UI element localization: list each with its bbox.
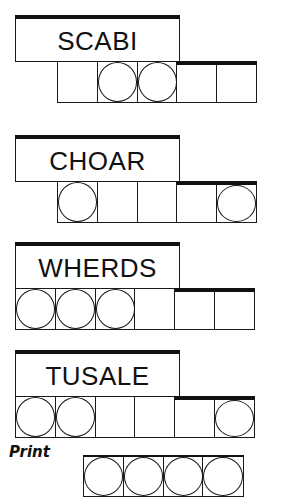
letter-cell[interactable] (216, 61, 257, 103)
circle-marker-icon (203, 457, 242, 496)
scrambled-word: TUSALE (45, 361, 149, 389)
answer-cell-circled[interactable] (123, 455, 164, 497)
letter-cell[interactable] (57, 61, 98, 103)
letter-cell-circled[interactable] (97, 61, 138, 103)
letter-cell[interactable] (97, 181, 138, 223)
print-label: Print (9, 443, 50, 461)
letter-cell[interactable] (174, 396, 215, 438)
letter-cell[interactable] (95, 396, 136, 438)
letter-cell-circled[interactable] (214, 396, 255, 438)
circle-marker-icon (56, 289, 95, 329)
circle-marker-icon (58, 182, 97, 222)
circle-marker-icon (164, 457, 203, 496)
circle-marker-icon (217, 185, 256, 222)
scrambled-word-box: TUSALE (15, 350, 180, 397)
answer-cells (15, 288, 255, 330)
scrambled-word: CHOAR (49, 146, 145, 174)
letter-cell-circled[interactable] (15, 396, 56, 438)
scrambled-word-box: WHERDS (15, 242, 180, 289)
circle-marker-icon (98, 62, 137, 102)
answer-cells (15, 396, 255, 438)
scrambled-word: WHERDS (38, 253, 157, 281)
circle-marker-icon (84, 457, 123, 496)
circle-marker-icon (138, 62, 177, 102)
answer-cells (57, 61, 257, 103)
letter-cell-circled[interactable] (15, 288, 56, 330)
letter-cell-circled[interactable] (57, 181, 98, 223)
answer-cell-circled[interactable] (202, 455, 243, 497)
letter-cell[interactable] (176, 181, 217, 223)
letter-cell[interactable] (174, 288, 215, 330)
letter-cell[interactable] (176, 61, 217, 103)
letter-cell-circled[interactable] (137, 61, 178, 103)
circle-marker-icon (124, 457, 163, 496)
letter-cell-circled[interactable] (55, 288, 96, 330)
circle-marker-icon (16, 289, 55, 329)
letter-cell-circled[interactable] (216, 181, 257, 223)
final-answer-cells (83, 455, 244, 497)
scrambled-word-box: CHOAR (15, 135, 180, 182)
letter-cell-circled[interactable] (95, 288, 136, 330)
scrambled-word-box: SCABI (15, 15, 180, 62)
circle-marker-icon (56, 397, 95, 437)
answer-cell-circled[interactable] (83, 455, 124, 497)
letter-cell[interactable] (137, 181, 178, 223)
answer-cell-circled[interactable] (163, 455, 204, 497)
letter-cell[interactable] (214, 288, 255, 330)
circle-marker-icon (16, 397, 55, 437)
circle-marker-icon (215, 400, 254, 437)
scrambled-word: SCABI (57, 26, 138, 54)
letter-cell-circled[interactable] (55, 396, 96, 438)
circle-marker-icon (96, 289, 135, 329)
letter-cell[interactable] (134, 396, 175, 438)
letter-cell[interactable] (134, 288, 175, 330)
answer-cells (57, 181, 257, 223)
